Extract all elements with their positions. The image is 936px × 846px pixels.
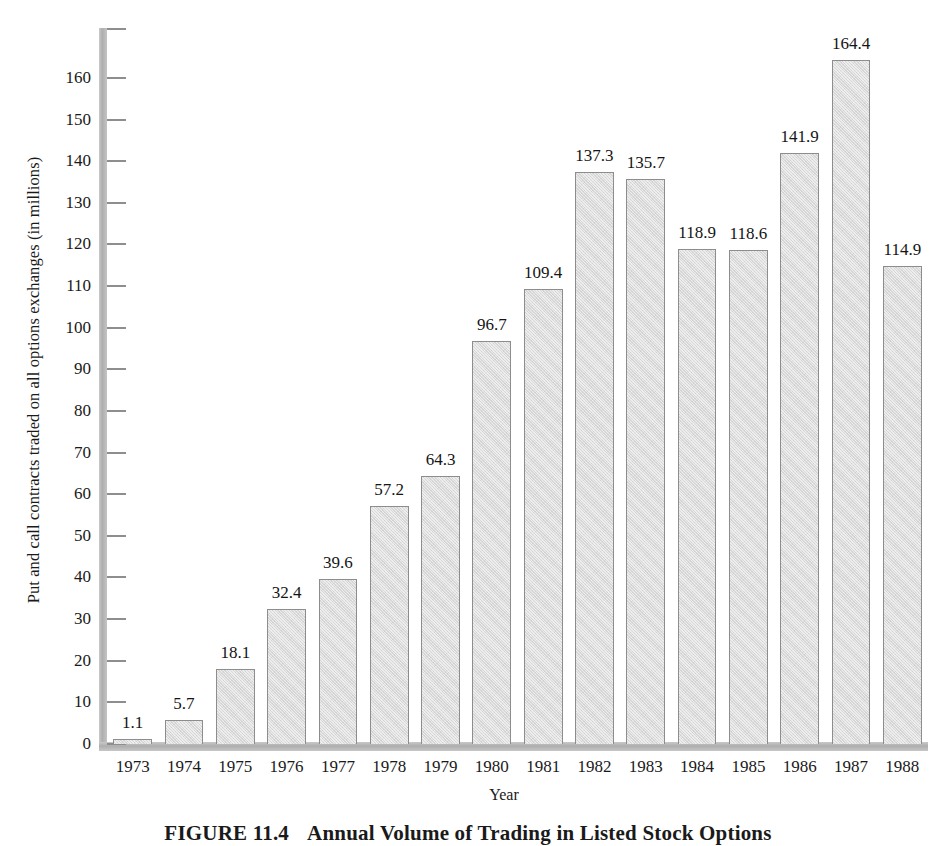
y-axis-tick-label: 80 (47, 402, 91, 419)
figure-caption: FIGURE 11.4Annual Volume of Trading in L… (0, 821, 936, 846)
bar[interactable] (267, 609, 306, 744)
y-axis-tick (107, 701, 126, 703)
y-axis-tick-label: 120 (47, 235, 91, 252)
bar[interactable] (421, 476, 460, 744)
y-axis-tick-label: 140 (47, 152, 91, 169)
y-axis-tick-label: 110 (47, 277, 91, 294)
y-axis-tick-label: 0 (47, 735, 91, 752)
figure-number: FIGURE 11.4 (164, 821, 289, 845)
y-axis-tick-label: 130 (47, 194, 91, 211)
y-axis-tick-label: 90 (47, 360, 91, 377)
bar[interactable] (370, 506, 409, 744)
y-axis-tick (107, 119, 126, 121)
bar-value-label: 109.4 (503, 264, 583, 281)
bar-value-label: 5.7 (144, 695, 224, 712)
x-axis-title: Year (0, 786, 936, 804)
bar[interactable] (883, 266, 922, 744)
y-axis-tick-label: 70 (47, 444, 91, 461)
bar-value-label: 118.6 (708, 225, 788, 242)
y-axis-tick (107, 368, 126, 370)
y-axis-tick-label: 50 (47, 527, 91, 544)
bar[interactable] (575, 172, 614, 744)
bar-value-label: 96.7 (452, 316, 532, 333)
bar[interactable] (626, 179, 665, 744)
bar-value-label: 135.7 (606, 154, 686, 171)
y-axis-tick-label: 10 (47, 693, 91, 710)
figure-title: Annual Volume of Trading in Listed Stock… (307, 821, 772, 845)
y-axis-tick (107, 410, 126, 412)
bar[interactable] (472, 341, 511, 744)
y-axis-tick-label: 20 (47, 652, 91, 669)
y-axis-tick (107, 202, 126, 204)
bar-value-label: 64.3 (401, 451, 481, 468)
bar[interactable] (729, 250, 768, 744)
bar[interactable] (113, 739, 152, 744)
y-axis-title: Put and call contracts traded on all opt… (18, 5, 50, 755)
y-axis-tick (107, 452, 126, 454)
y-axis-tick (107, 243, 126, 245)
y-axis-tick (107, 576, 126, 578)
y-axis-tick-label: 160 (47, 69, 91, 86)
bar-value-label: 32.4 (247, 584, 327, 601)
y-axis-tick (107, 285, 126, 287)
bar-value-label: 1.1 (93, 714, 173, 731)
bar-value-label: 164.4 (811, 35, 891, 52)
bar[interactable] (524, 289, 563, 744)
y-axis-tick (107, 327, 126, 329)
bar[interactable] (319, 579, 358, 744)
y-axis-tick-label: 150 (47, 111, 91, 128)
y-axis-tick-label: 60 (47, 485, 91, 502)
y-axis-tick (107, 660, 126, 662)
bar-value-label: 57.2 (349, 481, 429, 498)
y-axis-tick-top (107, 28, 126, 30)
bar-value-label: 39.6 (298, 554, 378, 571)
bar-value-label: 141.9 (760, 128, 840, 145)
y-axis-tick-label: 40 (47, 568, 91, 585)
y-axis-tick (107, 535, 126, 537)
y-axis-tick-label: 100 (47, 319, 91, 336)
x-axis-tick-label: 1988 (862, 758, 936, 775)
y-axis-tick (107, 493, 126, 495)
y-axis-tick (107, 77, 126, 79)
y-axis-tick (107, 618, 126, 620)
y-axis-line (99, 28, 107, 751)
y-axis-tick (107, 160, 126, 162)
bar[interactable] (678, 249, 717, 744)
bar[interactable] (832, 60, 871, 744)
bar-value-label: 114.9 (862, 241, 936, 258)
bar-value-label: 18.1 (195, 644, 275, 661)
x-axis-title-text: Year (489, 786, 518, 803)
y-axis-tick-label: 30 (47, 610, 91, 627)
